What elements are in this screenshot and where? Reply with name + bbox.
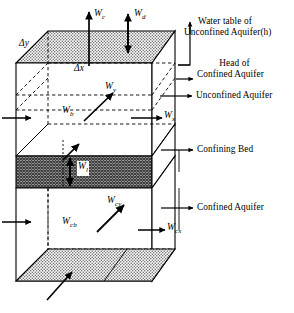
label-delta-y: Δy — [19, 38, 29, 49]
label-Wb: Wb — [62, 105, 74, 120]
annotation-head-confined-line1: Head of — [205, 58, 264, 69]
label-Wcy: Wcy — [107, 195, 121, 210]
label-Wl: Wl — [77, 161, 89, 176]
block-diagram-svg — [0, 0, 294, 313]
label-Wcb: Wcb — [62, 216, 77, 231]
annotation-head-confined: Head of Confined Aquifer — [205, 58, 264, 80]
label-Wc: Wc — [94, 8, 105, 23]
top-face-water-table — [16, 31, 175, 63]
label-delta-x: Δx — [74, 63, 84, 74]
annotation-confined-aquifer: Confined Aquifer — [197, 202, 264, 213]
annotation-confining-bed: Confining Bed — [197, 144, 253, 155]
figure-canvas: Δy Δx Wc Wd Wy Wb Wx Wl Wcy Wcb Wcx Wate… — [0, 0, 294, 313]
annotation-head-confined-line2: Confined Aquifer — [197, 69, 264, 80]
annotation-water-table-line1: Water table of — [198, 16, 272, 27]
label-Wcx: Wcx — [167, 222, 181, 237]
label-Wx: Wx — [164, 110, 175, 125]
annotation-confined-aquifer-line1: Confined Aquifer — [197, 202, 264, 213]
annotation-water-table-line2: Unconfined Aquifer(h) — [184, 27, 272, 38]
annotation-water-table: Water table of Unconfined Aquifer(h) — [198, 16, 272, 38]
annotation-confining-bed-line1: Confining Bed — [197, 144, 253, 155]
label-Wy: Wy — [105, 81, 116, 96]
annotation-unconfined-aquifer: Unconfined Aquifer — [196, 90, 272, 101]
annotation-unconfined-aquifer-line1: Unconfined Aquifer — [196, 90, 272, 101]
label-Wd: Wd — [134, 8, 146, 23]
